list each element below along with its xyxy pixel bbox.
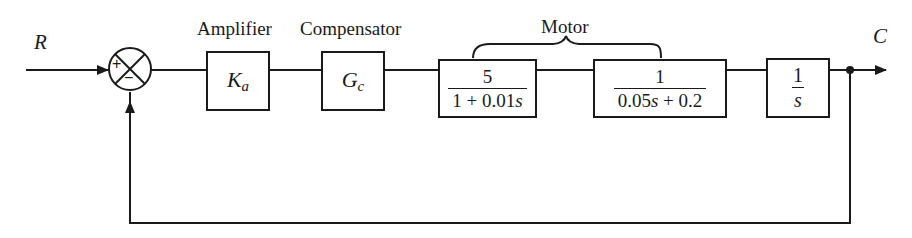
motor-stage-1-transfer-function: 5 1 + 0.01s xyxy=(439,60,536,117)
minus-sign: − xyxy=(124,69,133,87)
output-signal-label: C xyxy=(873,24,887,49)
motor-brace xyxy=(473,36,661,58)
block-diagram: R C + − Amplifier Compensator Motor Ka G… xyxy=(0,0,912,238)
amplifier-gain: Ka xyxy=(207,52,269,110)
motor-stage-2-transfer-function: 1 0.05s + 0.2 xyxy=(594,60,726,117)
diagram-lines xyxy=(0,0,912,238)
motor-caption: Motor xyxy=(541,16,589,38)
compensator-transfer-function: Gc xyxy=(322,52,384,110)
plus-sign: + xyxy=(112,55,121,73)
amplifier-caption: Amplifier xyxy=(197,18,272,40)
takeoff-point xyxy=(846,66,854,74)
input-signal-label: R xyxy=(34,30,47,55)
integrator-transfer-function: 1 s xyxy=(767,59,829,117)
compensator-caption: Compensator xyxy=(300,18,401,40)
